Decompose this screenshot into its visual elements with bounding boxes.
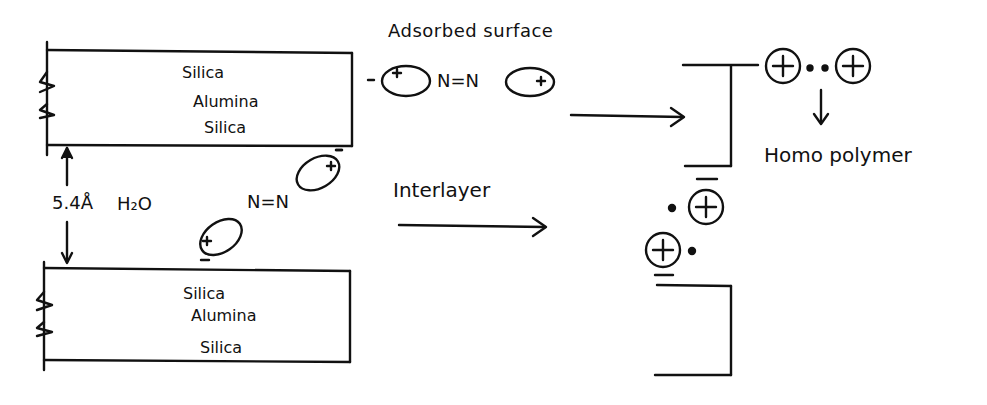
azo-label-interlayer: N=N <box>247 193 289 211</box>
adsorbed-reaction-arrow <box>571 108 684 126</box>
bottom-layer-silica-lower: Silica <box>200 340 242 356</box>
adsorbed-surface-label: Adsorbed surface <box>388 22 553 40</box>
interlayer-product <box>646 179 723 275</box>
azo-label-adsorbed: N=N <box>437 72 479 90</box>
product-top-bracket <box>683 65 758 166</box>
interlayer-reaction-arrow <box>399 218 546 236</box>
cation-ellipse-icon <box>506 68 554 96</box>
homo-polymer-label: Homo polymer <box>764 145 912 165</box>
water-label: H₂O <box>117 195 152 213</box>
bottom-layer-silica-upper: Silica <box>183 286 225 302</box>
interlayer-label: Interlayer <box>393 180 490 200</box>
cation-ellipse-icon <box>291 149 346 198</box>
top-layer-alumina: Alumina <box>193 94 259 110</box>
cation-ellipse-icon <box>194 212 249 263</box>
spacing-label: 5.4Å <box>52 194 93 212</box>
top-layer-silica-upper: Silica <box>182 65 224 81</box>
bottom-layer-alumina: Alumina <box>191 308 257 324</box>
homo-polymer-pair <box>766 49 870 124</box>
product-bottom-bracket <box>655 285 731 375</box>
cation-ellipse-icon <box>382 66 430 96</box>
top-layer-silica-lower: Silica <box>204 120 246 136</box>
